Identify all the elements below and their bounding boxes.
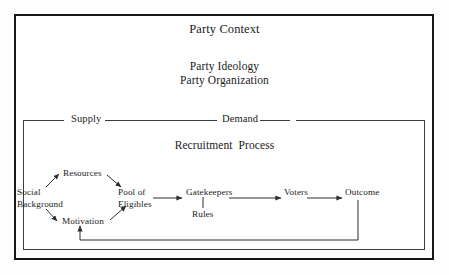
inner-box-top-rule-mid-right <box>258 120 290 121</box>
party-ideology-label: Party Ideology <box>0 60 449 74</box>
inner-box-top-rule-left <box>23 120 64 121</box>
inner-box-top-rule-mid-left <box>105 120 217 121</box>
node-gatekeepers: Gatekeepers <box>186 187 233 198</box>
party-context-title: Party Context <box>0 22 449 37</box>
node-rules: Rules <box>192 209 213 220</box>
supply-region-label: Supply <box>68 113 104 125</box>
node-social: Social <box>17 187 41 198</box>
node-resources: Resources <box>63 168 102 179</box>
party-organization-label: Party Organization <box>0 74 449 88</box>
node-outcome: Outcome <box>345 187 379 198</box>
node-eligibles: Eligibles <box>118 199 152 210</box>
inner-box-top-rule-right <box>296 120 425 121</box>
demand-region-label: Demand <box>220 113 260 125</box>
node-background: Background <box>17 199 63 210</box>
party-recruitment-diagram: Party Context Party Ideology Party Organ… <box>0 0 449 275</box>
node-motivation: Motivation <box>62 216 104 227</box>
node-voters: Voters <box>284 187 308 198</box>
node-pool-of: Pool of <box>118 187 146 198</box>
recruitment-process-title: Recruitment Process <box>0 139 449 153</box>
